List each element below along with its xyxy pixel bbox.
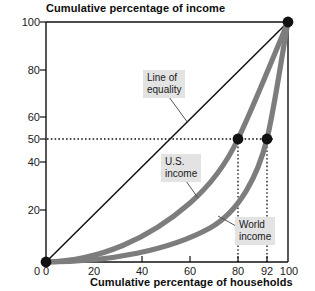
lorenz-curve-figure: Cumulative percentage of income Cumulati… <box>0 0 315 291</box>
marker-origin <box>41 257 52 268</box>
annotation-world-income: World income <box>235 217 275 245</box>
annotation-us-income: U.S. income <box>161 154 201 182</box>
marker-top-right <box>283 17 294 28</box>
leader-us-income <box>186 181 198 198</box>
annotation-us-income-line1: U.S. <box>165 156 197 168</box>
marker-us-income-median <box>233 134 244 145</box>
y-axis-ticks <box>40 22 46 210</box>
annotation-world-income-line2: income <box>239 231 271 243</box>
leader-line-of-equality <box>169 97 188 123</box>
annotation-line-of-equality: Line of equality <box>143 70 185 98</box>
plot-svg <box>0 0 315 291</box>
annotation-us-income-line2: income <box>165 168 197 180</box>
annotation-line-of-equality-line2: equality <box>147 84 181 96</box>
annotation-line-of-equality-line1: Line of <box>147 72 181 84</box>
marker-world-income-median <box>262 134 273 145</box>
annotation-world-income-line1: World <box>239 219 271 231</box>
